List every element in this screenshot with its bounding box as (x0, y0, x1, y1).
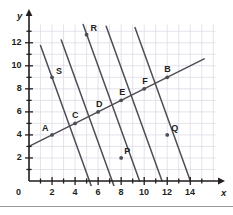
axis-tick-label-y-10: 10 (12, 61, 22, 70)
point-label-F: F (142, 77, 148, 86)
y-axis-name: y (17, 11, 22, 21)
axis-tick-label-x-10: 10 (139, 188, 149, 197)
point-marker-P (119, 156, 123, 160)
point-marker-R (85, 33, 89, 37)
point-label-R: R (91, 24, 98, 33)
axis-tick-label-y-6: 6 (17, 107, 22, 116)
axis-tick-label-y-4: 4 (17, 130, 22, 139)
point-label-B: B (164, 65, 171, 74)
point-marker-A (50, 133, 54, 137)
axis-tick-label-y-12: 12 (12, 38, 22, 47)
data-line-transversal-3 (83, 25, 139, 181)
point-marker-D (96, 110, 100, 114)
point-label-P: P (124, 147, 130, 156)
axis-tick-label-x-12: 12 (162, 188, 172, 197)
point-label-Q: Q (171, 124, 178, 133)
axis-tick-label-origin: 0 (16, 188, 21, 197)
axis-tick-label-x-8: 8 (119, 188, 124, 197)
point-marker-B (165, 75, 169, 79)
axis-tick-label-x-2: 2 (49, 188, 54, 197)
axis-tick-label-y-8: 8 (17, 84, 22, 93)
axis-tick-label-x-4: 4 (72, 188, 77, 197)
point-marker-Q (165, 133, 169, 137)
point-marker-E (119, 98, 123, 102)
point-marker-F (142, 87, 146, 91)
x-axis-arrowhead (218, 178, 225, 185)
point-label-S: S (56, 67, 62, 76)
point-label-C: C (72, 111, 79, 120)
axis-tick-label-x-14: 14 (185, 188, 195, 197)
point-label-E: E (119, 88, 125, 97)
bottom-divider (0, 206, 233, 207)
axis-tick-label-y-2: 2 (17, 153, 22, 162)
point-marker-S (50, 75, 54, 79)
coordinate-plane-svg (0, 0, 233, 215)
point-label-D: D (96, 100, 103, 109)
x-axis-name: x (221, 188, 226, 198)
coordinate-plane-figure: 0246810121424681012xyACDEFBSRPQ (0, 0, 233, 215)
point-label-A: A (42, 124, 49, 133)
y-axis-arrowhead (26, 9, 33, 16)
axis-tick-label-x-6: 6 (96, 188, 101, 197)
point-marker-C (73, 122, 77, 126)
